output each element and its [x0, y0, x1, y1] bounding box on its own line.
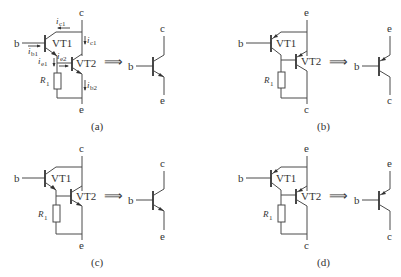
equivalence-arrow-icon: ⟹ — [329, 188, 348, 203]
equivalent-npn-symbol: b c e — [128, 22, 165, 106]
svg-text:e: e — [387, 157, 392, 169]
svg-text:b: b — [128, 194, 134, 206]
terminal-base-label: b — [14, 37, 20, 49]
svg-text:b: b — [354, 194, 360, 206]
equivalence-arrow-icon: ⟹ — [104, 54, 123, 69]
vt1-collector — [272, 48, 281, 73]
equivalent-pnp-symbol: b e c — [354, 22, 392, 106]
wire — [56, 222, 82, 234]
svg-text:e1: e1 — [41, 60, 48, 68]
svg-text:b: b — [354, 60, 360, 72]
svg-text:e2: e2 — [60, 55, 67, 63]
vt2-label: VT2 — [76, 190, 96, 202]
panel-a: c b e VT1 VT2 R 1 i c1 — [14, 6, 165, 133]
svg-text:1: 1 — [269, 214, 273, 222]
terminal-bottom-label: e — [79, 103, 84, 115]
wire — [281, 88, 307, 98]
vt1-label: VT1 — [52, 37, 72, 49]
terminal-top-label: c — [79, 142, 84, 154]
resistor-r1 — [53, 205, 60, 222]
svg-text:c: c — [387, 230, 392, 242]
vt1-emitter — [46, 48, 57, 73]
terminal-bottom-label: c — [304, 103, 309, 115]
svg-text:1: 1 — [270, 80, 274, 88]
svg-text:e: e — [387, 22, 392, 34]
equivalence-arrow-icon: ⟹ — [329, 54, 348, 69]
current-ic1-top: i c1 — [56, 16, 70, 30]
svg-text:c: c — [160, 157, 165, 169]
vt1-label: VT1 — [276, 172, 296, 184]
wire — [281, 222, 307, 234]
svg-text:R: R — [39, 75, 46, 85]
r1-label: R 1 — [263, 75, 274, 88]
vt2-label: VT2 — [76, 57, 96, 69]
terminal-bottom-label: c — [304, 239, 309, 251]
svg-text:b: b — [128, 60, 134, 72]
vt1-emitter — [46, 183, 56, 205]
wire — [57, 89, 82, 98]
terminal-base-label: b — [14, 172, 20, 184]
panel-d: e b c VT1 VT2 R 1 ⟹ b e c — [238, 142, 392, 269]
svg-text:R: R — [263, 75, 270, 85]
equivalent-pnp-symbol: b e c — [354, 157, 392, 242]
svg-text:c: c — [387, 94, 392, 106]
caption-a: (a) — [91, 120, 104, 133]
svg-text:b2: b2 — [90, 84, 98, 92]
equivalence-arrow-icon: ⟹ — [104, 188, 123, 203]
svg-text:c1: c1 — [59, 20, 66, 28]
vt1-collector — [272, 183, 281, 205]
svg-text:R: R — [37, 209, 44, 219]
svg-text:c1: c1 — [90, 39, 97, 47]
vt1-emitter-arrow-icon — [50, 185, 56, 190]
svg-text:1: 1 — [46, 80, 50, 88]
resistor-r1 — [278, 72, 285, 88]
terminal-base-label: b — [238, 37, 244, 49]
current-ic1-right: i c1 — [84, 35, 98, 47]
vt1-label: VT1 — [51, 172, 71, 184]
vt1-label: VT1 — [276, 37, 296, 49]
terminal-top-label: e — [304, 142, 309, 154]
svg-text:c: c — [160, 22, 165, 34]
panel-b: e b c VT1 VT2 R 1 ⟹ b e c — [238, 6, 392, 133]
svg-text:e: e — [160, 94, 165, 106]
terminal-top-label: c — [79, 6, 84, 18]
darlington-diagram: c b e VT1 VT2 R 1 i c1 — [0, 0, 401, 277]
svg-text:R: R — [262, 209, 269, 219]
caption-d: (d) — [317, 256, 330, 269]
terminal-bottom-label: e — [79, 239, 84, 251]
caption-c: (c) — [91, 256, 104, 269]
terminal-base-label: b — [238, 172, 244, 184]
current-ie2: i e2 — [57, 51, 69, 68]
vt2-label: VT2 — [301, 190, 321, 202]
current-ib2: i b2 — [84, 80, 98, 92]
resistor-r1 — [54, 73, 61, 89]
r1-label: R 1 — [39, 75, 50, 88]
terminal-top-label: e — [304, 6, 309, 18]
resistor-r1 — [278, 205, 285, 222]
current-ie1: i e1 — [38, 56, 56, 68]
r1-label: R 1 — [37, 209, 48, 222]
equivalent-npn-symbol: b c e — [128, 157, 165, 242]
svg-text:1: 1 — [44, 214, 48, 222]
svg-text:e: e — [160, 230, 165, 242]
caption-b: (b) — [317, 120, 330, 133]
r1-label: R 1 — [262, 209, 273, 222]
vt2-label: VT2 — [301, 55, 321, 67]
panel-c: c b e VT1 VT2 R 1 ⟹ b c e — [14, 142, 165, 269]
